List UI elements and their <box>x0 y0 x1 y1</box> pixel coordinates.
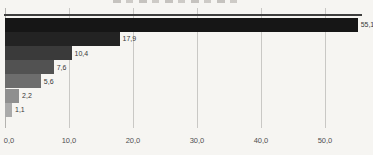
value-label-7: 1,1 <box>15 106 25 113</box>
bar-7 <box>5 103 12 117</box>
value-label-3: 10,4 <box>75 50 89 57</box>
value-label-2: 17,9 <box>123 35 137 42</box>
x-tick-label-20,0: 20,0 <box>126 136 141 145</box>
top-axis-line <box>4 14 362 16</box>
value-label-4: 7,6 <box>57 64 67 71</box>
bar-chart: 55,117,910,47,65,62,21,1 0,010,020,030,0… <box>0 0 373 155</box>
bar-4 <box>5 60 54 74</box>
bar-2 <box>5 32 120 46</box>
value-label-6: 2,2 <box>22 92 32 99</box>
x-tick-label-50,0: 50,0 <box>318 136 333 145</box>
value-label-1: 55,1 <box>361 21 373 28</box>
x-tick-label-30,0: 30,0 <box>190 136 205 145</box>
x-tick-label-0,0: 0,0 <box>4 136 14 145</box>
bar-1 <box>5 18 358 32</box>
cropped-title-fragment <box>113 0 239 3</box>
x-tick-label-10,0: 10,0 <box>62 136 77 145</box>
bar-5 <box>5 74 41 88</box>
x-tick-label-40,0: 40,0 <box>254 136 269 145</box>
value-label-5: 5,6 <box>44 78 54 85</box>
bar-6 <box>5 89 19 103</box>
bar-3 <box>5 46 72 60</box>
